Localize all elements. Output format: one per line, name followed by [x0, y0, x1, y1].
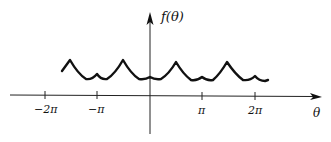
tick-label-2pi: 2π: [247, 104, 263, 117]
tick-label-neg-pi: −π: [88, 103, 105, 116]
chart-figure: −2π −π π 2π f(θ) θ: [0, 0, 331, 142]
x-axis-label: θ: [313, 106, 321, 120]
function-curve: [62, 60, 268, 81]
y-axis-label: f(θ): [160, 9, 184, 24]
tick-label-pi: π: [197, 104, 206, 117]
tick-label-neg-2pi: −2π: [34, 103, 58, 116]
x-axis: [10, 95, 314, 97]
